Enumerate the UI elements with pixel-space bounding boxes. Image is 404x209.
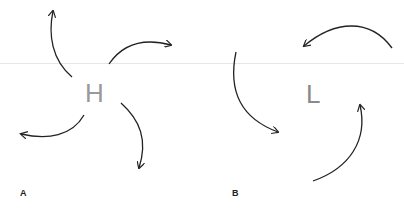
arrow-h-right	[109, 42, 171, 64]
high-pressure-symbol: H	[85, 80, 104, 106]
arrow-layer	[0, 0, 404, 209]
arrow-l-top	[304, 26, 392, 48]
arrow-h-down	[121, 103, 143, 168]
low-pressure-symbol: L	[306, 81, 320, 107]
arrow-h-left	[21, 115, 84, 137]
arrow-l-bottom	[313, 105, 362, 181]
arrow-h-up	[51, 11, 72, 77]
arrow-l-left	[234, 52, 278, 132]
panel-label-a: A	[20, 188, 27, 198]
panel-label-b: B	[232, 188, 239, 198]
